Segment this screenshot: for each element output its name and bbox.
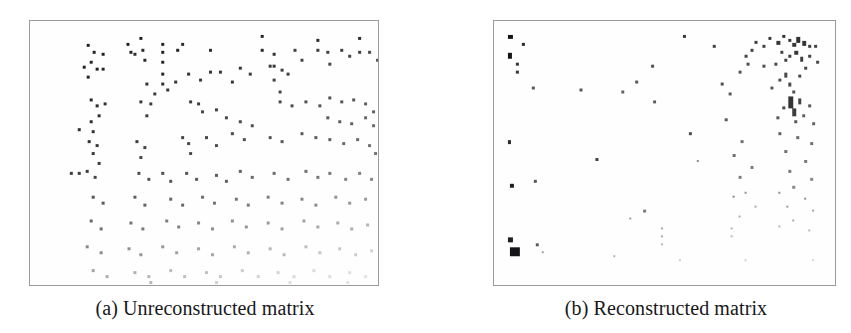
matrix-plot-reconstructed bbox=[493, 20, 836, 286]
scatter-canvas-b bbox=[494, 21, 835, 285]
caption-panel-b: (b) Reconstructed matrix bbox=[516, 295, 816, 321]
figure-root: (a) Unreconstructed matrix (b) Reconstru… bbox=[0, 0, 851, 333]
matrix-plot-unreconstructed bbox=[29, 20, 379, 286]
scatter-canvas-a bbox=[30, 21, 378, 285]
caption-panel-a: (a) Unreconstructed matrix bbox=[46, 295, 364, 321]
